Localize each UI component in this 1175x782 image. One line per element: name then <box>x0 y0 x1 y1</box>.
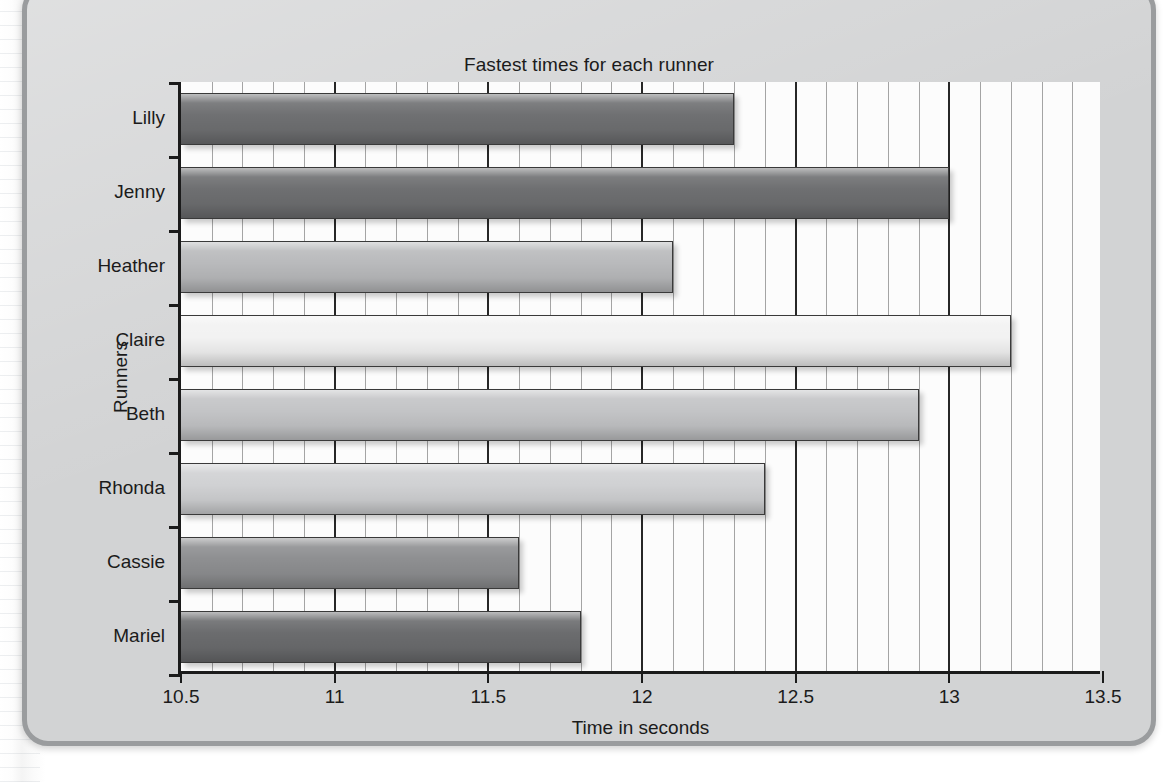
gridline-minor <box>980 82 981 671</box>
bar-rhonda[interactable] <box>181 463 765 515</box>
y-axis-label-heather: Heather <box>0 255 165 277</box>
bar-jenny[interactable] <box>181 167 949 219</box>
gridline-minor <box>1011 82 1012 671</box>
y-axis-label-rhonda: Rhonda <box>0 477 165 499</box>
y-axis-label-jenny: Jenny <box>0 181 165 203</box>
y-axis-tick <box>169 378 181 381</box>
x-axis-label-11.5: 11.5 <box>443 686 533 708</box>
y-axis-title: Runners <box>110 341 132 413</box>
x-axis-label-12.5: 12.5 <box>751 686 841 708</box>
bar-cassie[interactable] <box>181 537 519 589</box>
y-axis-label-claire: Claire <box>0 329 165 351</box>
bar-chart-figure: Fastest times for each runner Runners Ti… <box>22 0 1156 746</box>
y-axis-tick <box>169 452 181 455</box>
x-axis-tick <box>948 671 950 683</box>
chart-title: Fastest times for each runner <box>22 54 1156 76</box>
bar-lilly[interactable] <box>181 93 734 145</box>
x-axis-tick <box>641 671 643 683</box>
y-axis-tick <box>169 82 181 85</box>
x-axis-tick <box>795 671 797 683</box>
y-axis-tick <box>169 304 181 307</box>
bar-beth[interactable] <box>181 389 919 441</box>
bar-heather[interactable] <box>181 241 673 293</box>
x-axis-label-13: 13 <box>904 686 994 708</box>
x-axis-label-10.5: 10.5 <box>136 686 226 708</box>
gridline-minor <box>1072 82 1073 671</box>
y-axis-label-mariel: Mariel <box>0 625 165 647</box>
x-axis-label-13.5: 13.5 <box>1058 686 1148 708</box>
y-axis-tick <box>169 600 181 603</box>
y-axis-tick <box>169 526 181 529</box>
y-axis-tick <box>169 230 181 233</box>
bar-mariel[interactable] <box>181 611 581 663</box>
y-axis-label-lilly: Lilly <box>0 107 165 129</box>
plot-inner <box>181 82 1100 671</box>
bar-claire[interactable] <box>181 315 1011 367</box>
x-axis-tick <box>180 671 182 683</box>
y-axis-tick <box>169 156 181 159</box>
y-axis-label-cassie: Cassie <box>0 551 165 573</box>
gridline-minor <box>1042 82 1043 671</box>
x-axis-tick <box>487 671 489 683</box>
x-axis-tick <box>1102 671 1104 683</box>
x-axis-title: Time in seconds <box>181 717 1100 739</box>
x-axis-label-11: 11 <box>290 686 380 708</box>
x-axis-tick <box>334 671 336 683</box>
x-axis-label-12: 12 <box>597 686 687 708</box>
y-axis-label-beth: Beth <box>0 403 165 425</box>
plot-area: Runners Time in seconds LillyJennyHeathe… <box>178 82 1100 674</box>
